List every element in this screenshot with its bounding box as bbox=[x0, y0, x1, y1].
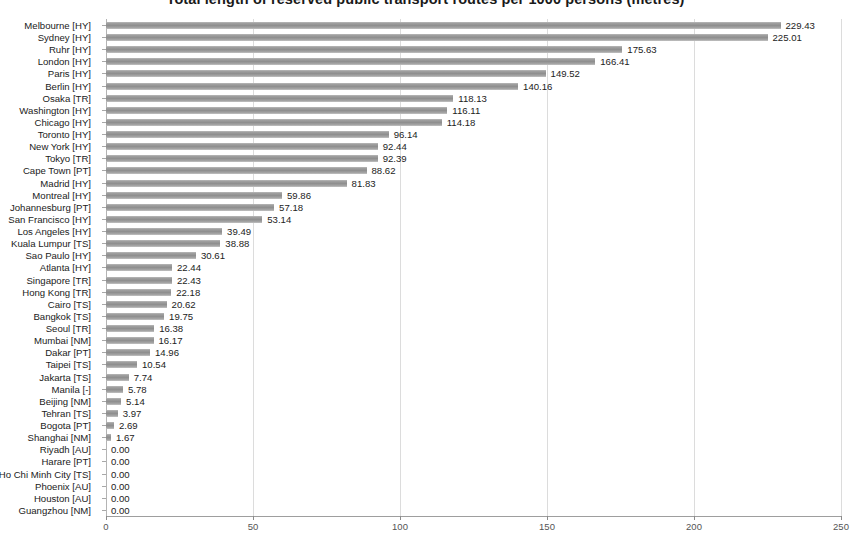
y-tick bbox=[102, 510, 106, 511]
bar-row: Tokyo [TR]92.39 bbox=[0, 152, 851, 165]
bar-row: Melbourne [HY]229.43 bbox=[0, 19, 851, 32]
category-label: Bogota [PT] bbox=[0, 419, 91, 432]
bar[interactable] bbox=[106, 349, 150, 356]
category-label: Taipei [TS] bbox=[0, 358, 91, 371]
bar[interactable] bbox=[106, 289, 171, 296]
bar-value-label: 0.00 bbox=[111, 455, 130, 468]
bar[interactable] bbox=[106, 252, 196, 259]
chart-title: Total length of reserved public transpor… bbox=[0, 0, 851, 7]
bar[interactable] bbox=[106, 180, 347, 187]
bar[interactable] bbox=[106, 216, 262, 223]
bar-value-label: 22.44 bbox=[177, 261, 201, 274]
bar[interactable] bbox=[106, 228, 222, 235]
category-label: Johannesburg [PT] bbox=[0, 201, 91, 214]
bar[interactable] bbox=[106, 361, 137, 368]
category-label: Sao Paulo [HY] bbox=[0, 249, 91, 262]
bar[interactable] bbox=[106, 131, 389, 138]
bar[interactable] bbox=[106, 167, 367, 174]
bar-row: Singapore [TR]22.43 bbox=[0, 274, 851, 287]
category-label: Kuala Lumpur [TS] bbox=[0, 237, 91, 250]
category-label: Tehran [TS] bbox=[0, 407, 91, 420]
category-label: Ho Chi Minh City [TS] bbox=[0, 468, 91, 481]
category-label: Ruhr [HY] bbox=[0, 43, 91, 56]
bar[interactable] bbox=[106, 386, 123, 393]
bar[interactable] bbox=[106, 337, 154, 344]
bar-row: New York [HY]92.44 bbox=[0, 140, 851, 153]
bar-row: Seoul [TR]16.38 bbox=[0, 322, 851, 335]
bar-value-label: 118.13 bbox=[458, 92, 487, 105]
category-label: Guangzhou [NM] bbox=[0, 504, 91, 517]
bar-value-label: 16.38 bbox=[159, 322, 183, 335]
bar[interactable] bbox=[106, 83, 518, 90]
bar-row: Chicago [HY]114.18 bbox=[0, 116, 851, 129]
bar-value-label: 19.75 bbox=[169, 310, 193, 323]
bar-row: Los Angeles [HY]39.49 bbox=[0, 225, 851, 238]
y-tick bbox=[102, 498, 106, 499]
bar[interactable] bbox=[106, 325, 154, 332]
category-label: Montreal [HY] bbox=[0, 189, 91, 202]
category-label: Singapore [TR] bbox=[0, 274, 91, 287]
category-label: Mumbai [NM] bbox=[0, 334, 91, 347]
bar-row: Washington [HY]116.11 bbox=[0, 104, 851, 117]
bar[interactable] bbox=[106, 240, 220, 247]
bar-value-label: 0.00 bbox=[111, 504, 130, 517]
category-label: Harare [PT] bbox=[0, 455, 91, 468]
bar-value-label: 7.74 bbox=[134, 371, 153, 384]
bar-value-label: 225.01 bbox=[773, 31, 802, 44]
category-label: Berlin [HY] bbox=[0, 80, 91, 93]
category-label: Riyadh [AU] bbox=[0, 443, 91, 456]
bar-value-label: 116.11 bbox=[452, 104, 480, 117]
category-label: Sydney [HY] bbox=[0, 31, 91, 44]
category-label: Tokyo [TR] bbox=[0, 152, 91, 165]
bar[interactable] bbox=[106, 46, 622, 53]
bar-value-label: 38.88 bbox=[225, 237, 249, 250]
bar[interactable] bbox=[106, 107, 447, 114]
bar-row: Hong Kong [TR]22.18 bbox=[0, 286, 851, 299]
bar-row: Berlin [HY]140.16 bbox=[0, 80, 851, 93]
bar-value-label: 114.18 bbox=[447, 116, 476, 129]
category-label: Seoul [TR] bbox=[0, 322, 91, 335]
category-label: Beijing [NM] bbox=[0, 395, 91, 408]
bar[interactable] bbox=[106, 22, 781, 29]
bar-row: Paris [HY]149.52 bbox=[0, 67, 851, 80]
bar[interactable] bbox=[106, 155, 378, 162]
x-tick-label-50: 50 bbox=[248, 521, 259, 532]
bar-row: Shanghai [NM]1.67 bbox=[0, 431, 851, 444]
bar[interactable] bbox=[106, 398, 121, 405]
bar[interactable] bbox=[106, 143, 378, 150]
bar-value-label: 5.78 bbox=[128, 383, 147, 396]
bar-row: Bogota [PT]2.69 bbox=[0, 419, 851, 432]
bar[interactable] bbox=[106, 374, 129, 381]
bar[interactable] bbox=[106, 301, 167, 308]
y-tick bbox=[102, 449, 106, 450]
bar-row: Osaka [TR]118.13 bbox=[0, 92, 851, 105]
category-label: San Francisco [HY] bbox=[0, 213, 91, 226]
bar[interactable] bbox=[106, 58, 595, 65]
bar-row: Toronto [HY]96.14 bbox=[0, 128, 851, 141]
bar-value-label: 53.14 bbox=[267, 213, 291, 226]
category-label: New York [HY] bbox=[0, 140, 91, 153]
bar-value-label: 2.69 bbox=[119, 419, 138, 432]
bar-row: Beijing [NM]5.14 bbox=[0, 395, 851, 408]
bar-row: Ruhr [HY]175.63 bbox=[0, 43, 851, 56]
bar-row: Jakarta [TS]7.74 bbox=[0, 371, 851, 384]
bar[interactable] bbox=[106, 204, 274, 211]
bar[interactable] bbox=[106, 434, 111, 441]
bar-value-label: 140.16 bbox=[523, 80, 552, 93]
bar-value-label: 0.00 bbox=[111, 480, 130, 493]
category-label: Washington [HY] bbox=[0, 104, 91, 117]
bar[interactable] bbox=[106, 70, 546, 77]
bar[interactable] bbox=[106, 422, 114, 429]
bar[interactable] bbox=[106, 410, 118, 417]
bar[interactable] bbox=[106, 34, 768, 41]
bar-value-label: 20.62 bbox=[172, 298, 196, 311]
bar-row: Manila [-]5.78 bbox=[0, 383, 851, 396]
bar-value-label: 175.63 bbox=[627, 43, 656, 56]
bar[interactable] bbox=[106, 277, 172, 284]
bar[interactable] bbox=[106, 264, 172, 271]
bar[interactable] bbox=[106, 313, 164, 320]
bar[interactable] bbox=[106, 119, 442, 126]
category-label: Toronto [HY] bbox=[0, 128, 91, 141]
bar[interactable] bbox=[106, 192, 282, 199]
bar[interactable] bbox=[106, 95, 453, 102]
